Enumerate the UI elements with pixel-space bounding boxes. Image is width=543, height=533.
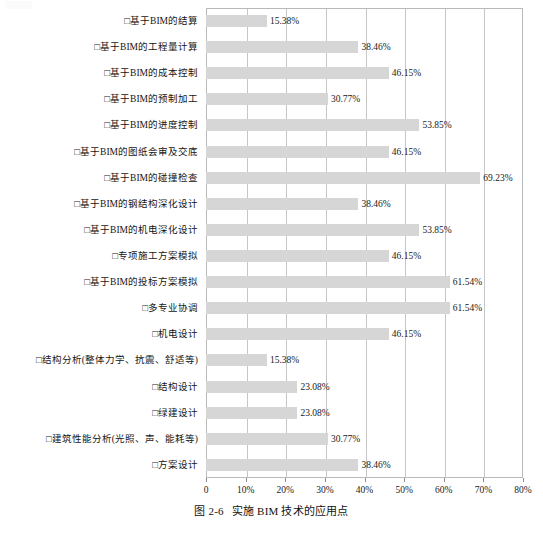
bar — [206, 407, 297, 419]
category-label: □机电设计 — [0, 321, 198, 347]
bar — [206, 354, 267, 366]
bar — [206, 381, 297, 393]
x-tick-label: 30% — [316, 483, 333, 497]
bar-value-label: 23.08% — [300, 377, 329, 397]
x-tick-label: 10% — [237, 483, 254, 497]
x-tick-mark — [325, 478, 326, 482]
figure-container: □基于BIM的结算□基于BIM的工程量计算□基于BIM的成本控制□基于BIM的预… — [0, 0, 543, 533]
category-label: □结构分析(整体力学、抗震、舒适等) — [0, 347, 198, 373]
x-tick-mark — [483, 478, 484, 482]
figure-caption: 图 2-6实施 BIM 技术的应用点 — [0, 503, 543, 519]
bar-row: 61.54% — [206, 295, 523, 321]
bar-value-label: 46.15% — [392, 324, 421, 344]
bar-row: 46.15% — [206, 60, 523, 86]
bar-row: 38.46% — [206, 34, 523, 60]
bar-value-label: 15.38% — [270, 350, 299, 370]
category-label: □基于BIM的机电深化设计 — [0, 217, 198, 243]
bar — [206, 328, 389, 340]
bar — [206, 146, 389, 158]
x-tick-label: 70% — [475, 483, 492, 497]
x-tick-mark — [444, 478, 445, 482]
x-tick-label: 60% — [435, 483, 452, 497]
bar — [206, 276, 450, 288]
bar-value-label: 46.15% — [392, 246, 421, 266]
category-label: □多专业协调 — [0, 295, 198, 321]
figure-caption-text: 实施 BIM 技术的应用点 — [232, 505, 349, 517]
x-tick-mark — [246, 478, 247, 482]
bar-chart: □基于BIM的结算□基于BIM的工程量计算□基于BIM的成本控制□基于BIM的预… — [0, 0, 543, 485]
x-tick-mark — [523, 478, 524, 482]
bar-row: 30.77% — [206, 426, 523, 452]
bar-row: 38.46% — [206, 191, 523, 217]
value-axis: 010%20%30%40%50%60%70%80% — [206, 478, 523, 500]
bar-value-label: 53.85% — [422, 220, 451, 240]
bar-value-label: 46.15% — [392, 142, 421, 162]
x-tick-mark — [404, 478, 405, 482]
bar-value-label: 30.77% — [331, 89, 360, 109]
bar-value-label: 30.77% — [331, 429, 360, 449]
category-label: □专项施工方案模拟 — [0, 243, 198, 269]
bar — [206, 198, 358, 210]
bar-value-label: 38.46% — [361, 37, 390, 57]
category-label: □基于BIM的钢结构深化设计 — [0, 191, 198, 217]
x-tick-mark — [365, 478, 366, 482]
x-tick-label: 40% — [356, 483, 373, 497]
bar-row: 23.08% — [206, 374, 523, 400]
bar-value-label: 61.54% — [453, 272, 482, 292]
bar-row: 15.38% — [206, 8, 523, 34]
x-tick-mark — [206, 478, 207, 482]
bar — [206, 459, 358, 471]
category-label: □基于BIM的图纸会审及交底 — [0, 139, 198, 165]
category-label: □基于BIM的碰撞检查 — [0, 165, 198, 191]
category-label: □基于BIM的结算 — [0, 8, 198, 34]
bar-row: 46.15% — [206, 139, 523, 165]
bar-row: 46.15% — [206, 321, 523, 347]
bar — [206, 250, 389, 262]
category-label: □基于BIM的进度控制 — [0, 112, 198, 138]
bar-value-label: 23.08% — [300, 403, 329, 423]
bar-row: 46.15% — [206, 243, 523, 269]
bar-row: 15.38% — [206, 347, 523, 373]
x-tick-mark — [285, 478, 286, 482]
x-tick-label: 20% — [277, 483, 294, 497]
bar-row: 30.77% — [206, 86, 523, 112]
bar-value-label: 15.38% — [270, 11, 299, 31]
category-label: □基于BIM的工程量计算 — [0, 34, 198, 60]
bar-row: 61.54% — [206, 269, 523, 295]
bar — [206, 93, 328, 105]
bar-value-label: 38.46% — [361, 455, 390, 475]
bar-value-label: 69.23% — [483, 168, 512, 188]
category-label: □方案设计 — [0, 452, 198, 478]
bar — [206, 172, 480, 184]
x-tick-label: 0 — [204, 483, 209, 497]
bar-series: 15.38%38.46%46.15%30.77%53.85%46.15%69.2… — [206, 8, 523, 478]
bar — [206, 67, 389, 79]
category-axis: □基于BIM的结算□基于BIM的工程量计算□基于BIM的成本控制□基于BIM的预… — [0, 8, 202, 478]
category-label: □基于BIM的成本控制 — [0, 60, 198, 86]
bar-value-label: 53.85% — [422, 115, 451, 135]
bar — [206, 15, 267, 27]
bar — [206, 119, 419, 131]
bar-row: 23.08% — [206, 400, 523, 426]
bar-row: 53.85% — [206, 112, 523, 138]
bar — [206, 433, 328, 445]
category-label: □建筑性能分析(光照、声、能耗等) — [0, 426, 198, 452]
category-label: □基于BIM的预制加工 — [0, 86, 198, 112]
bar-row: 38.46% — [206, 452, 523, 478]
category-label: □绿建设计 — [0, 400, 198, 426]
x-tick-label: 50% — [395, 483, 412, 497]
bar — [206, 224, 419, 236]
bar-row: 69.23% — [206, 165, 523, 191]
x-tick-label: 80% — [514, 483, 531, 497]
figure-number: 图 2-6 — [194, 505, 223, 517]
category-label: □基于BIM的投标方案模拟 — [0, 269, 198, 295]
bar-value-label: 46.15% — [392, 63, 421, 83]
bar-value-label: 61.54% — [453, 298, 482, 318]
bar-row: 53.85% — [206, 217, 523, 243]
bar — [206, 302, 450, 314]
category-label: □结构设计 — [0, 374, 198, 400]
bar-value-label: 38.46% — [361, 194, 390, 214]
bar — [206, 41, 358, 53]
